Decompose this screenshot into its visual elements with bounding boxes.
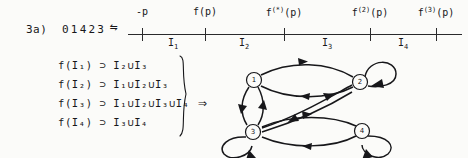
graph-node-3-label: 3	[251, 128, 255, 136]
equation-row: f(I₃) ⊃ I₁∪I₂∪I₃∪I₄	[58, 94, 190, 113]
edge-1-2	[261, 65, 353, 77]
graph-node-4-label: 4	[360, 127, 365, 135]
code-word: 01423	[62, 23, 106, 36]
implies-arrow-icon: ⇒	[198, 96, 207, 111]
self-loop-3	[222, 137, 252, 158]
equation-row: f(I₁) ⊃ I₂∪I₃	[58, 56, 190, 75]
figure-root: 3a) 01423 ⇋ -p f(p) f(*)(p) f(2)(p) f(3)…	[0, 0, 468, 158]
item-label: 3a)	[26, 23, 47, 36]
grouping-brace	[176, 54, 196, 138]
edge-3-4	[262, 118, 356, 128]
axis-label-f-p: f(p)	[193, 6, 217, 17]
graph-node-1-label: 1	[252, 76, 256, 84]
interval-label-i4: I4	[398, 37, 408, 51]
axis-label-f-2-p: f(2)(p)	[352, 6, 389, 18]
directed-graph: 1 2 3 4	[216, 52, 416, 158]
equation-list: f(I₁) ⊃ I₂∪I₃ f(I₂) ⊃ I₁∪I₂∪I₃ f(I₃) ⊃ I…	[58, 56, 190, 132]
equation-row: f(I₂) ⊃ I₁∪I₂∪I₃	[58, 75, 190, 94]
axis-tick	[142, 28, 143, 41]
axis-tick	[436, 28, 437, 41]
equivalence-arrow-icon: ⇋	[110, 20, 118, 33]
interval-label-i1: I1	[168, 37, 178, 51]
interval-label-i3: I3	[322, 37, 332, 51]
axis-label-f-star-p: f(*)(p)	[266, 6, 303, 18]
interval-label-i2: I2	[239, 37, 249, 51]
arrowhead	[302, 143, 312, 150]
arrowhead	[300, 93, 310, 100]
axis-tick	[284, 28, 285, 41]
equation-row: f(I₄) ⊃ I₃∪I₄	[58, 113, 190, 132]
axis-label-f-3-p: f(3)(p)	[418, 6, 455, 18]
axis-tick	[205, 28, 206, 41]
axis-tick	[370, 28, 371, 41]
number-line: -p f(p) f(*)(p) f(2)(p) f(3)(p) I1 I2 I3…	[128, 4, 464, 52]
axis-line	[128, 34, 462, 35]
graph-node-2-label: 2	[358, 78, 362, 86]
axis-label-minus-p: -p	[136, 6, 148, 17]
